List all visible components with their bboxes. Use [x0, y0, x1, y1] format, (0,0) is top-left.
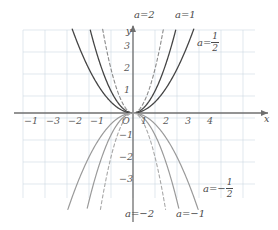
y-tick-label: −1: [119, 130, 133, 140]
x-tick-label: 4: [207, 116, 213, 126]
y-tick-label: 1: [124, 85, 130, 95]
y-tick-label: −3: [119, 174, 133, 184]
curve-label-a-neg-half: a=−12: [203, 179, 233, 200]
x-tick-label: 1: [141, 116, 147, 126]
fraction-one-half: 12: [211, 32, 219, 53]
y-axis-label: y: [126, 26, 131, 36]
fraction-numerator: 1: [226, 178, 234, 187]
x-tick-label: −2: [68, 116, 82, 126]
fraction-numerator: 1: [211, 32, 219, 41]
curve-label-a1: a=1: [175, 10, 196, 20]
curve-label-a-neg-half-prefix: a=−: [203, 184, 226, 194]
fraction-neg-one-half: 12: [226, 178, 234, 199]
curve-label-a-half-prefix: a=: [197, 38, 211, 48]
x-tick-label: −3: [46, 116, 60, 126]
curve-label-a-neg1: a=−1: [176, 209, 205, 219]
x-tick-label: −1: [90, 116, 104, 126]
parabola-plot: [0, 0, 278, 230]
chart-canvas: −1 −3 −2 −1 1 2 3 4 O 3 2 1 −1 −2 −3 y x…: [0, 0, 278, 230]
curve-label-a-half: a=12: [197, 33, 219, 54]
x-tick-label: 2: [163, 116, 169, 126]
fraction-denominator: 2: [226, 190, 234, 199]
curve-label-a-neg2: a=−2: [125, 209, 154, 219]
curve-label-a2: a=2: [134, 10, 155, 20]
x-tick-label: 3: [185, 116, 191, 126]
y-tick-label: 3: [124, 41, 130, 51]
x-axis-label: x: [264, 114, 269, 124]
x-tick-label: −1: [24, 116, 38, 126]
y-tick-label: −2: [119, 152, 133, 162]
origin-label: O: [122, 116, 130, 126]
y-tick-label: 2: [124, 63, 130, 73]
fraction-denominator: 2: [211, 44, 219, 53]
